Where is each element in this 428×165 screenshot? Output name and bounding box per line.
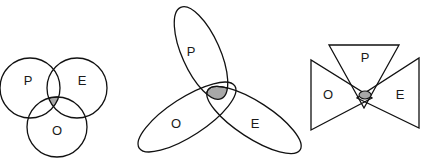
- circle-venn-panel: P E O: [0, 58, 107, 157]
- label-p: P: [361, 50, 370, 65]
- label-e: E: [396, 87, 405, 102]
- ellipse-venn-panel: P O E: [129, 0, 310, 165]
- ellipse-p: [163, 0, 238, 106]
- label-o: O: [52, 123, 62, 138]
- label-o: O: [171, 116, 181, 131]
- venn-diagram-figure: P E O P O E P O E: [0, 0, 428, 165]
- triple-intersection-shaded: [359, 91, 371, 99]
- label-o: O: [323, 87, 333, 102]
- triangle-venn-panel: P O E: [311, 45, 419, 130]
- label-e: E: [78, 73, 87, 88]
- label-e: E: [251, 116, 260, 131]
- label-p: P: [24, 73, 33, 88]
- label-p: P: [187, 44, 196, 59]
